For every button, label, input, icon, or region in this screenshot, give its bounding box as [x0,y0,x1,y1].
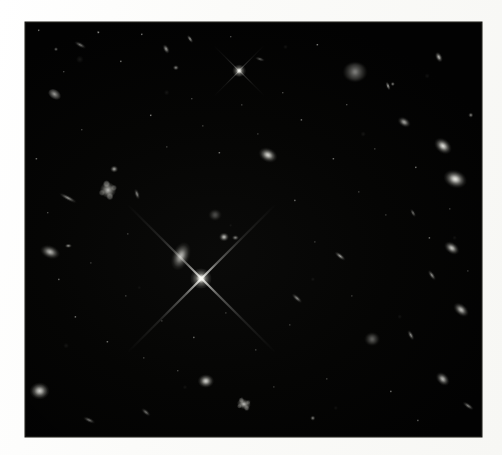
background-noise-layer [25,22,482,437]
deep-field-image [25,22,482,437]
page-root [0,0,502,455]
